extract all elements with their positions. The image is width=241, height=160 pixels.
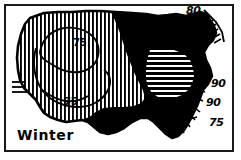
contour-label-75-west-upper: 75 — [73, 38, 86, 48]
season-caption: Winter — [17, 128, 74, 142]
contour-label-90-upper: 90 — [211, 78, 226, 89]
contour-label-90-middle: 90 — [206, 97, 221, 108]
winter-contour-map-figure: 80 75 75 90 90 75 Winter — [0, 0, 241, 160]
contour-label-75-west-lower: 75 — [64, 97, 77, 107]
contour-label-80: 80 — [186, 5, 201, 16]
contour-label-75-right: 75 — [209, 117, 224, 128]
